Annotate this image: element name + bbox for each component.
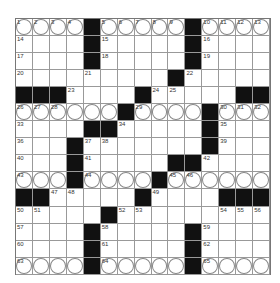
grid-cell[interactable] xyxy=(50,155,67,172)
grid-cell[interactable] xyxy=(152,53,169,70)
grid-cell[interactable]: 30 xyxy=(219,104,236,121)
grid-cell[interactable] xyxy=(33,155,50,172)
grid-cell[interactable] xyxy=(50,207,67,224)
grid-cell[interactable] xyxy=(84,207,101,224)
grid-cell[interactable] xyxy=(118,189,135,206)
grid-cell[interactable] xyxy=(50,241,67,258)
grid-cell[interactable] xyxy=(135,224,152,241)
grid-cell[interactable] xyxy=(236,138,253,155)
grid-cell[interactable] xyxy=(168,258,185,275)
grid-cell[interactable] xyxy=(253,121,270,138)
grid-cell[interactable] xyxy=(135,36,152,53)
grid-cell[interactable] xyxy=(253,138,270,155)
grid-cell[interactable] xyxy=(236,241,253,258)
grid-cell[interactable] xyxy=(219,258,236,275)
grid-cell[interactable] xyxy=(101,172,118,189)
grid-cell[interactable]: 64 xyxy=(101,258,118,275)
grid-cell[interactable]: 37 xyxy=(84,138,101,155)
grid-cell[interactable] xyxy=(219,155,236,172)
grid-cell[interactable]: 48 xyxy=(67,189,84,206)
grid-cell[interactable] xyxy=(135,258,152,275)
grid-cell[interactable] xyxy=(168,224,185,241)
grid-cell[interactable]: 60 xyxy=(16,241,33,258)
grid-cell[interactable] xyxy=(219,87,236,104)
grid-cell[interactable]: 62 xyxy=(202,241,219,258)
grid-cell[interactable] xyxy=(219,241,236,258)
grid-cell[interactable] xyxy=(236,224,253,241)
grid-cell[interactable] xyxy=(168,138,185,155)
grid-cell[interactable] xyxy=(219,36,236,53)
grid-cell[interactable] xyxy=(101,189,118,206)
grid-cell[interactable]: 38 xyxy=(101,138,118,155)
grid-cell[interactable] xyxy=(50,172,67,189)
grid-cell[interactable]: 22 xyxy=(185,70,202,87)
grid-cell[interactable]: 57 xyxy=(16,224,33,241)
grid-cell[interactable] xyxy=(152,155,169,172)
grid-cell[interactable]: 19 xyxy=(202,53,219,70)
grid-cell[interactable] xyxy=(219,70,236,87)
grid-cell[interactable] xyxy=(236,53,253,70)
grid-cell[interactable]: 28 xyxy=(50,104,67,121)
grid-cell[interactable] xyxy=(101,155,118,172)
grid-cell[interactable] xyxy=(152,224,169,241)
grid-cell[interactable]: 33 xyxy=(16,121,33,138)
grid-cell[interactable] xyxy=(202,70,219,87)
grid-cell[interactable]: 16 xyxy=(202,36,219,53)
grid-cell[interactable]: 32 xyxy=(253,104,270,121)
grid-cell[interactable] xyxy=(118,36,135,53)
grid-cell[interactable] xyxy=(67,104,84,121)
grid-cell[interactable]: 3 xyxy=(50,19,67,36)
grid-cell[interactable] xyxy=(118,87,135,104)
grid-cell[interactable]: 61 xyxy=(101,241,118,258)
grid-cell[interactable] xyxy=(152,241,169,258)
grid-cell[interactable]: 1 xyxy=(16,19,33,36)
grid-cell[interactable]: 47 xyxy=(50,189,67,206)
grid-cell[interactable] xyxy=(50,53,67,70)
grid-cell[interactable]: 26 xyxy=(16,104,33,121)
grid-cell[interactable]: 63 xyxy=(16,258,33,275)
grid-cell[interactable] xyxy=(67,70,84,87)
grid-cell[interactable] xyxy=(67,241,84,258)
grid-cell[interactable] xyxy=(33,138,50,155)
grid-cell[interactable] xyxy=(118,138,135,155)
grid-cell[interactable]: 9 xyxy=(168,19,185,36)
grid-cell[interactable] xyxy=(236,70,253,87)
grid-cell[interactable] xyxy=(152,104,169,121)
grid-cell[interactable]: 42 xyxy=(202,155,219,172)
grid-cell[interactable] xyxy=(118,53,135,70)
grid-cell[interactable] xyxy=(135,155,152,172)
grid-cell[interactable]: 65 xyxy=(202,258,219,275)
grid-cell[interactable] xyxy=(168,104,185,121)
grid-cell[interactable] xyxy=(202,207,219,224)
grid-cell[interactable] xyxy=(253,70,270,87)
grid-cell[interactable] xyxy=(101,70,118,87)
grid-cell[interactable]: 17 xyxy=(16,53,33,70)
grid-cell[interactable] xyxy=(118,241,135,258)
grid-cell[interactable] xyxy=(236,155,253,172)
grid-cell[interactable]: 52 xyxy=(118,207,135,224)
grid-cell[interactable] xyxy=(118,155,135,172)
grid-cell[interactable] xyxy=(168,189,185,206)
grid-cell[interactable] xyxy=(152,121,169,138)
grid-cell[interactable]: 18 xyxy=(101,53,118,70)
grid-cell[interactable]: 2 xyxy=(33,19,50,36)
grid-cell[interactable] xyxy=(202,189,219,206)
grid-cell[interactable] xyxy=(202,87,219,104)
grid-cell[interactable]: 24 xyxy=(152,87,169,104)
grid-cell[interactable] xyxy=(135,121,152,138)
grid-cell[interactable] xyxy=(152,36,169,53)
grid-cell[interactable] xyxy=(185,138,202,155)
grid-cell[interactable]: 41 xyxy=(84,155,101,172)
grid-cell[interactable]: 10 xyxy=(202,19,219,36)
grid-cell[interactable] xyxy=(33,172,50,189)
grid-cell[interactable] xyxy=(168,241,185,258)
grid-cell[interactable]: 12 xyxy=(236,19,253,36)
grid-cell[interactable]: 58 xyxy=(101,224,118,241)
grid-cell[interactable] xyxy=(33,121,50,138)
grid-cell[interactable] xyxy=(152,207,169,224)
grid-cell[interactable] xyxy=(185,87,202,104)
grid-cell[interactable] xyxy=(50,121,67,138)
grid-cell[interactable] xyxy=(219,53,236,70)
grid-cell[interactable] xyxy=(67,36,84,53)
grid-cell[interactable]: 21 xyxy=(84,70,101,87)
